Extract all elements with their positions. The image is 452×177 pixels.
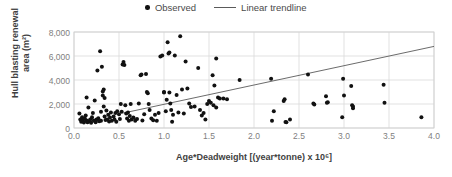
observed-series	[77, 34, 423, 125]
plot-area	[0, 0, 452, 177]
scatter-chart: Observed Linear trendline Hull blasting …	[0, 0, 452, 177]
